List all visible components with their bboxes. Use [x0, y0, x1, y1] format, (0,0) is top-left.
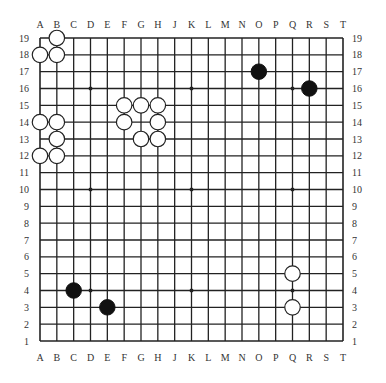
column-label-top: F: [121, 19, 127, 30]
star-point-q10: [291, 188, 295, 192]
column-label-bottom: D: [87, 352, 94, 363]
column-label-bottom: B: [53, 352, 60, 363]
row-label-left: 8: [24, 218, 29, 229]
white-stone-a14: [32, 114, 47, 129]
white-stone-g15: [133, 98, 148, 113]
row-label-left: 7: [24, 235, 29, 246]
star-point-d4: [89, 289, 93, 293]
white-stone-h15: [150, 98, 165, 113]
star-point-q4: [291, 289, 295, 293]
column-label-top: K: [188, 19, 196, 30]
column-label-bottom: G: [137, 352, 144, 363]
row-label-right: 13: [352, 134, 362, 145]
star-point-k4: [190, 289, 194, 293]
white-stone-a12: [32, 148, 47, 163]
star-point-d10: [89, 188, 93, 192]
row-label-left: 4: [24, 285, 29, 296]
row-label-left: 5: [24, 268, 29, 279]
row-label-left: 18: [19, 49, 29, 60]
column-label-bottom: J: [173, 352, 177, 363]
column-label-top: N: [238, 19, 245, 30]
white-stone-a18: [32, 47, 47, 62]
white-stone-b19: [49, 30, 64, 45]
star-point-d16: [89, 87, 93, 91]
row-label-right: 16: [352, 83, 362, 94]
column-labels-bottom: ABCDEFGHJKLMNOPQRST: [36, 352, 346, 363]
row-label-right: 11: [352, 167, 362, 178]
row-labels-right: 19181716151413121110987654321: [352, 33, 362, 347]
black-stone-o17: [251, 64, 266, 79]
column-label-top: B: [53, 19, 60, 30]
black-stone-c4: [66, 283, 81, 298]
star-point-q16: [291, 87, 295, 91]
row-label-left: 3: [24, 302, 29, 313]
column-labels-top: ABCDEFGHJKLMNOPQRST: [36, 19, 346, 30]
column-label-bottom: S: [323, 352, 329, 363]
row-label-right: 8: [352, 218, 357, 229]
row-label-right: 19: [352, 33, 362, 44]
column-label-bottom: M: [221, 352, 230, 363]
column-label-bottom: N: [238, 352, 245, 363]
row-label-left: 11: [19, 167, 29, 178]
row-label-right: 17: [352, 66, 362, 77]
column-label-top: S: [323, 19, 329, 30]
column-label-top: R: [306, 19, 313, 30]
row-label-left: 12: [19, 150, 29, 161]
row-label-right: 15: [352, 100, 362, 111]
column-label-bottom: F: [121, 352, 127, 363]
column-label-bottom: T: [340, 352, 346, 363]
row-label-left: 1: [24, 336, 29, 347]
column-label-top: H: [154, 19, 161, 30]
white-stone-b14: [49, 114, 64, 129]
white-stone-q3: [285, 300, 300, 315]
row-label-right: 1: [352, 336, 357, 347]
column-label-bottom: P: [273, 352, 279, 363]
white-stone-b13: [49, 131, 64, 146]
column-label-bottom: A: [36, 352, 44, 363]
column-label-top: L: [205, 19, 211, 30]
go-board-diagram: ABCDEFGHJKLMNOPQRST ABCDEFGHJKLMNOPQRST …: [0, 0, 386, 383]
column-label-top: G: [137, 19, 144, 30]
column-label-top: C: [70, 19, 77, 30]
star-point-k16: [190, 87, 194, 91]
row-label-left: 9: [24, 201, 29, 212]
white-stone-q5: [285, 266, 300, 281]
row-label-left: 14: [19, 117, 29, 128]
column-label-top: P: [273, 19, 279, 30]
row-label-left: 10: [19, 184, 29, 195]
column-label-top: D: [87, 19, 94, 30]
white-stone-g13: [133, 131, 148, 146]
row-label-left: 15: [19, 100, 29, 111]
column-label-bottom: E: [104, 352, 110, 363]
column-label-top: E: [104, 19, 110, 30]
black-stone-r16: [302, 81, 317, 96]
row-label-right: 14: [352, 117, 362, 128]
row-label-right: 6: [352, 251, 357, 262]
column-label-bottom: H: [154, 352, 161, 363]
black-stone-e3: [100, 300, 115, 315]
column-label-top: O: [255, 19, 262, 30]
row-label-left: 2: [24, 319, 29, 330]
star-point-k10: [190, 188, 194, 192]
white-stone-b12: [49, 148, 64, 163]
white-stone-f15: [116, 98, 131, 113]
column-label-top: A: [36, 19, 44, 30]
column-label-top: M: [221, 19, 230, 30]
column-label-bottom: O: [255, 352, 262, 363]
column-label-bottom: K: [188, 352, 196, 363]
row-label-right: 4: [352, 285, 357, 296]
row-label-right: 5: [352, 268, 357, 279]
row-label-left: 13: [19, 134, 29, 145]
row-label-right: 2: [352, 319, 357, 330]
row-label-right: 9: [352, 201, 357, 212]
column-label-top: T: [340, 19, 346, 30]
column-label-top: Q: [289, 19, 297, 30]
row-label-right: 3: [352, 302, 357, 313]
white-stone-h14: [150, 114, 165, 129]
row-label-left: 6: [24, 251, 29, 262]
row-labels-left: 19181716151413121110987654321: [19, 33, 29, 347]
row-label-right: 10: [352, 184, 362, 195]
column-label-bottom: C: [70, 352, 77, 363]
white-stone-h13: [150, 131, 165, 146]
row-label-right: 7: [352, 235, 357, 246]
